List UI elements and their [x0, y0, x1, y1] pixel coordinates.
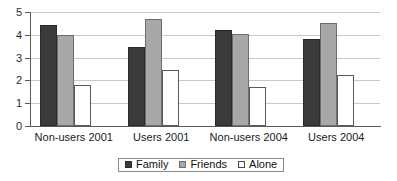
bar-friends [145, 19, 162, 126]
bar-friends [320, 23, 337, 126]
y-tick-label: 5 [0, 7, 22, 18]
x-axis-line [30, 126, 381, 127]
legend-label-family: Family [136, 159, 168, 170]
legend-label-friends: Friends [190, 159, 227, 170]
bar-group [40, 12, 91, 126]
legend-swatch-friends-icon [179, 161, 186, 168]
bar-friends [57, 35, 74, 126]
y-tick-label: 3 [0, 53, 22, 64]
x-axis-label: Non-users 2004 [205, 131, 293, 143]
bar-group [128, 12, 179, 126]
y-tick-label: 1 [0, 98, 22, 109]
plot-area [30, 12, 380, 126]
x-axis-label: Users 2004 [293, 131, 381, 143]
bar-alone [337, 75, 354, 126]
legend-item-friends: Friends [179, 159, 227, 170]
bar-family [128, 47, 145, 126]
legend-item-alone: Alone [238, 159, 277, 170]
y-tick-label: 2 [0, 75, 22, 86]
x-axis-label: Users 2001 [118, 131, 206, 143]
x-axis-label: Non-users 2001 [30, 131, 118, 143]
chart-legend: Family Friends Alone [118, 158, 284, 172]
y-tick-label: 4 [0, 30, 22, 41]
legend-swatch-family-icon [125, 161, 132, 168]
bar-group [303, 12, 354, 126]
bar-alone [74, 85, 91, 126]
bar-family [40, 25, 57, 126]
bar-family [215, 30, 232, 126]
bar-group [215, 12, 266, 126]
bar-chart: 012345 Non-users 2001Users 2001Non-users… [0, 0, 397, 181]
bar-alone [249, 87, 266, 126]
legend-label-alone: Alone [249, 159, 277, 170]
legend-item-family: Family [125, 159, 168, 170]
bar-friends [232, 34, 249, 126]
legend-swatch-alone-icon [238, 161, 245, 168]
bar-alone [162, 70, 179, 126]
y-tick-label: 0 [0, 121, 22, 132]
bar-family [303, 39, 320, 126]
